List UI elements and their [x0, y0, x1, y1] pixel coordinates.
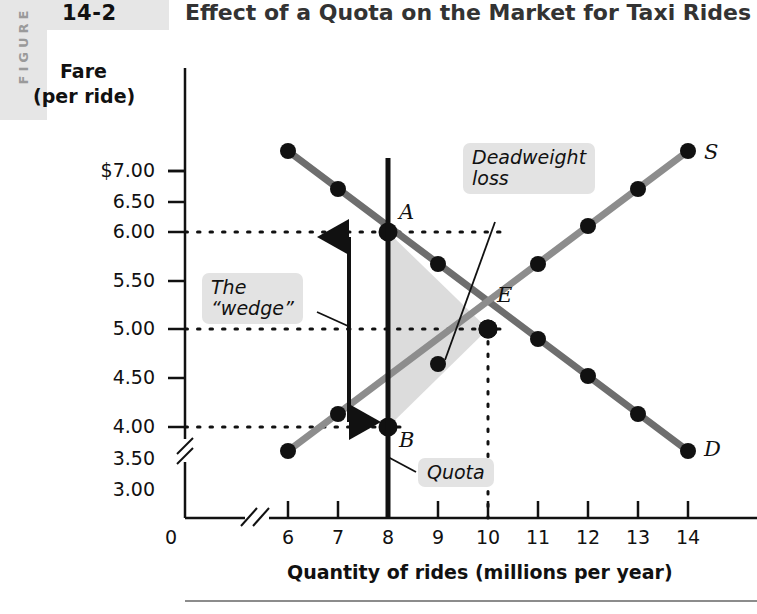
- y-axis-title-line2: (per ride): [33, 85, 135, 107]
- x-tick-label-7: 7: [318, 526, 358, 548]
- point-label-e: E: [497, 283, 512, 307]
- figure-number: 14-2: [62, 1, 117, 25]
- y-axis-title-line1: Fare: [60, 60, 107, 82]
- figure-header: 14-2 Effect of a Quota on the Market for…: [0, 0, 757, 30]
- y-tick-label-3-00: 3.00: [55, 478, 155, 500]
- y-tick-label-4-00: 4.00: [55, 415, 155, 437]
- deadweight-loss-callout-line2: loss: [472, 168, 586, 189]
- y-axis-ticks: [168, 171, 185, 427]
- demand-curve-label: D: [704, 437, 721, 461]
- y-tick-label-4-50: 4.50: [55, 366, 155, 388]
- x-tick-label-9: 9: [418, 526, 458, 548]
- x-tick-label-13: 13: [618, 526, 658, 548]
- x-tick-label-12: 12: [568, 526, 608, 548]
- y-tick-label-5-50: 5.50: [55, 269, 155, 291]
- figure-title: Effect of a Quota on the Market for Taxi…: [185, 0, 751, 25]
- x-axis-ticks: [288, 501, 688, 518]
- deadweight-loss-callout-line1: Deadweight: [472, 147, 586, 168]
- wedge-callout-line2: “wedge”: [211, 298, 294, 319]
- wedge-callout: The “wedge”: [202, 273, 303, 324]
- bottom-divider: [185, 600, 757, 602]
- deadweight-loss-callout: Deadweight loss: [463, 143, 595, 194]
- x-tick-label-10: 10: [468, 526, 508, 548]
- x-tick-label-11: 11: [518, 526, 558, 548]
- axis-origin-label: 0: [165, 526, 177, 548]
- y-tick-label-3-50: 3.50: [55, 447, 155, 469]
- point-label-a: A: [399, 200, 414, 224]
- x-axis-title: Quantity of rides (millions per year): [287, 561, 673, 583]
- point-label-b: B: [399, 428, 414, 452]
- wedge-leader-line: [317, 312, 348, 326]
- x-tick-label-8: 8: [368, 526, 408, 548]
- wedge-callout-line1: The: [211, 277, 294, 298]
- figure-plot-area: Fare (per ride) $7.00 6.50 6.00 5.50 5.0…: [47, 30, 757, 575]
- x-tick-label-14: 14: [668, 526, 708, 548]
- y-tick-label-6-00: 6.00: [55, 220, 155, 242]
- x-tick-label-6: 6: [268, 526, 308, 548]
- y-tick-label-7-00: $7.00: [55, 159, 155, 181]
- quota-callout: Quota: [418, 458, 494, 487]
- y-tick-label-6-50: 6.50: [55, 190, 155, 212]
- quota-leader-line: [388, 457, 416, 472]
- supply-curve-label: S: [704, 140, 718, 164]
- y-tick-label-5-00: 5.00: [55, 317, 155, 339]
